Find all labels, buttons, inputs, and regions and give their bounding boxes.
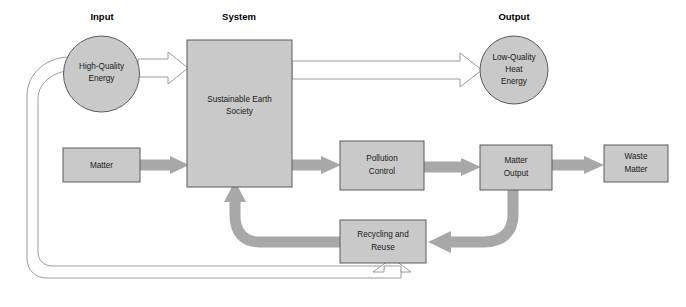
matter-label: Matter <box>90 161 113 170</box>
node-sustainable-earth-society[interactable]: Sustainable Earth Society <box>187 40 292 187</box>
low-quality-heat-energy-label-line1: Low-Quality <box>492 53 536 62</box>
high-quality-energy-label-line1: High-Quality <box>79 62 125 71</box>
matter-to-system-arrow <box>140 156 189 174</box>
section-label-system: System <box>222 11 256 22</box>
waste-matter-box <box>604 145 668 182</box>
recycling-to-system-arrow <box>224 181 340 242</box>
matter-output-label-line2: Output <box>504 169 529 178</box>
node-waste-matter[interactable]: Waste Matter <box>604 145 668 182</box>
system-to-pollution-control-arrow <box>292 156 341 174</box>
waste-matter-label-line1: Waste <box>625 152 648 161</box>
node-matter-output[interactable]: Matter Output <box>480 145 552 190</box>
section-label-output: Output <box>498 11 530 22</box>
pollution-control-to-matter-output-arrow <box>424 158 481 176</box>
matter-output-to-waste-matter-arrow <box>552 156 604 174</box>
diagram-canvas: High-Quality Energy Sustainable Earth So… <box>0 0 686 307</box>
matter-output-box <box>480 145 552 190</box>
low-quality-heat-energy-label-line3: Energy <box>501 77 528 86</box>
recycling-and-reuse-label-line1: Recycling and <box>357 230 409 239</box>
section-label-input: Input <box>90 11 114 22</box>
sustainable-earth-society-label-line2: Society <box>226 107 254 116</box>
system-to-heat-energy-arrow <box>292 53 482 87</box>
node-low-quality-heat-energy[interactable]: Low-Quality Heat Energy <box>480 36 548 104</box>
energy-to-system-arrow <box>138 52 188 84</box>
pollution-control-label-line1: Pollution <box>366 154 398 163</box>
node-recycling-and-reuse[interactable]: Recycling and Reuse <box>340 220 426 263</box>
node-high-quality-energy[interactable]: High-Quality Energy <box>64 36 140 112</box>
node-matter[interactable]: Matter <box>63 148 140 182</box>
matter-output-label-line1: Matter <box>504 156 527 165</box>
system-flow-diagram: High-Quality Energy Sustainable Earth So… <box>0 0 686 307</box>
matter-output-to-recycling-arrow <box>428 190 513 253</box>
pollution-control-box <box>340 141 424 190</box>
recycling-and-reuse-box <box>340 220 426 263</box>
pollution-control-label-line2: Control <box>369 167 396 176</box>
node-pollution-control[interactable]: Pollution Control <box>340 141 424 190</box>
recycling-and-reuse-label-line2: Reuse <box>371 243 395 252</box>
sustainable-earth-society-label-line1: Sustainable Earth <box>207 95 272 104</box>
high-quality-energy-label-line2: Energy <box>89 74 116 83</box>
low-quality-heat-energy-label-line2: Heat <box>505 65 523 74</box>
waste-matter-label-line2: Matter <box>624 165 647 174</box>
